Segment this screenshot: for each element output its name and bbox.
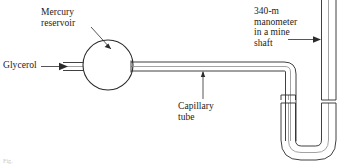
figure-footer-caption: Fig. — [3, 158, 13, 165]
mine-shaft-vertical-tube — [322, 0, 337, 100]
label-glycerol: Glycerol — [3, 60, 37, 71]
manometer-diagram: Mercury reservoir Glycerol Capillary tub… — [0, 0, 352, 167]
label-mercury-reservoir: Mercury reservoir — [41, 7, 75, 28]
capillary-tube-leader — [201, 71, 205, 99]
u-tube-leg-collars — [281, 95, 336, 103]
label-capillary-tube: Capillary tube — [178, 101, 214, 122]
label-manometer: 340-m manometer in a mine shaft — [254, 6, 297, 48]
glycerol-arrow — [41, 63, 68, 70]
u-tube-bend — [281, 103, 336, 160]
